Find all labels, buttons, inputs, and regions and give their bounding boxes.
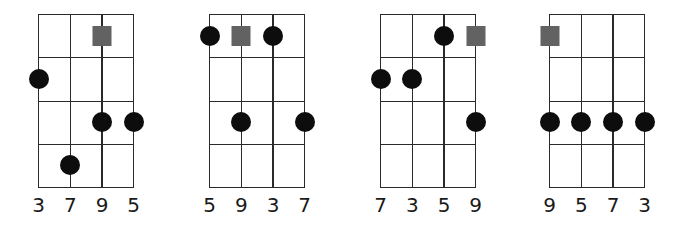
finger-dot-icon: [635, 112, 655, 132]
fret-line: [380, 187, 476, 188]
interval-label: 7: [369, 193, 393, 217]
finger-dot-icon: [295, 112, 315, 132]
fret-line: [549, 144, 645, 145]
fret-line: [209, 101, 305, 102]
fretboard-grid: [380, 14, 475, 187]
finger-dot-icon: [200, 26, 220, 46]
fret-line: [38, 57, 134, 58]
root-square-icon: [232, 26, 251, 46]
fretboard-grid: [38, 14, 133, 187]
fret-line: [38, 101, 134, 102]
finger-dot-icon: [402, 69, 422, 89]
interval-label: 7: [58, 193, 82, 217]
interval-label: 9: [90, 193, 114, 217]
finger-dot-icon: [92, 112, 112, 132]
fret-line: [549, 101, 645, 102]
finger-dot-icon: [371, 69, 391, 89]
interval-label: 7: [293, 193, 317, 217]
fret-line: [380, 14, 476, 15]
fret-line: [209, 57, 305, 58]
interval-label: 9: [464, 193, 488, 217]
finger-dot-icon: [60, 155, 80, 175]
finger-dot-icon: [434, 26, 454, 46]
root-square-icon: [466, 26, 485, 46]
finger-dot-icon: [124, 112, 144, 132]
interval-label: 7: [601, 193, 625, 217]
fret-line: [549, 14, 645, 15]
interval-label: 9: [229, 193, 253, 217]
fret-line: [380, 57, 476, 58]
fret-line: [549, 57, 645, 58]
chord-chart-4: 9573: [549, 0, 682, 230]
root-square-icon: [540, 26, 559, 46]
finger-dot-icon: [263, 26, 283, 46]
chord-chart-1: 3795: [38, 0, 178, 230]
fret-line: [209, 187, 305, 188]
fret-line: [38, 144, 134, 145]
interval-label: 5: [198, 193, 222, 217]
finger-dot-icon: [540, 112, 560, 132]
interval-label: 5: [569, 193, 593, 217]
chord-chart-3: 7359: [380, 0, 520, 230]
interval-label: 3: [633, 193, 657, 217]
interval-label: 3: [400, 193, 424, 217]
interval-label: 9: [538, 193, 562, 217]
fret-line: [380, 101, 476, 102]
finger-dot-icon: [231, 112, 251, 132]
fret-line: [38, 187, 134, 188]
fret-line: [549, 187, 645, 188]
finger-dot-icon: [466, 112, 486, 132]
fret-line: [380, 144, 476, 145]
fret-line: [209, 14, 305, 15]
finger-dot-icon: [603, 112, 623, 132]
finger-dot-icon: [571, 112, 591, 132]
fret-line: [38, 14, 134, 15]
interval-label: 3: [261, 193, 285, 217]
interval-label: 3: [27, 193, 51, 217]
fret-line: [209, 144, 305, 145]
fretboard-grid: [549, 14, 644, 187]
interval-label: 5: [122, 193, 146, 217]
fretboard-grid: [209, 14, 304, 187]
finger-dot-icon: [29, 69, 49, 89]
chord-chart-2: 5937: [209, 0, 349, 230]
root-square-icon: [93, 26, 112, 46]
interval-label: 5: [432, 193, 456, 217]
